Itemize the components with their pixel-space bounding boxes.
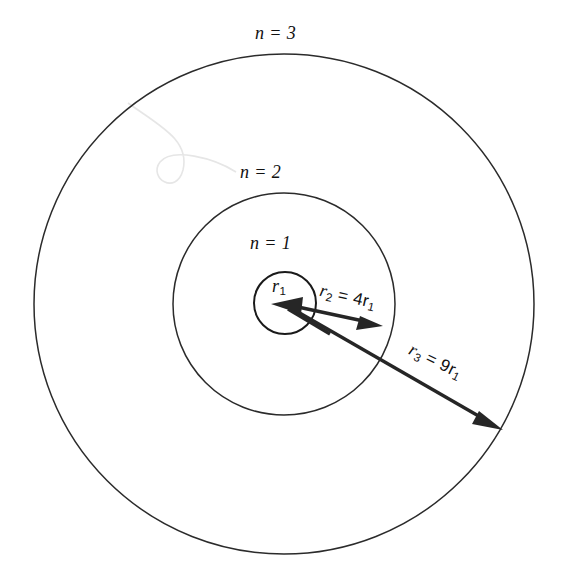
bohr-orbit-diagram: n = 3 n = 2 n = 1 r1 r2 = 4r1 r3 = 9r1 xyxy=(0,0,563,561)
orbit-label-n2: n = 2 xyxy=(240,163,281,181)
radius-label-r1-subscript: 1 xyxy=(279,285,285,297)
radius-label-r1: r1 xyxy=(272,277,286,298)
orbit-label-n1-text: n = 1 xyxy=(250,233,291,253)
orbit-label-n1: n = 1 xyxy=(250,234,291,252)
scan-smudge-artifact xyxy=(128,103,236,183)
radius-arrow-r1-head xyxy=(271,297,303,314)
orbit-label-n3-text: n = 3 xyxy=(255,23,296,43)
orbit-label-n2-text: n = 2 xyxy=(240,162,281,182)
orbit-label-n3: n = 3 xyxy=(255,24,296,42)
radius-arrow-r2-head xyxy=(356,316,383,330)
